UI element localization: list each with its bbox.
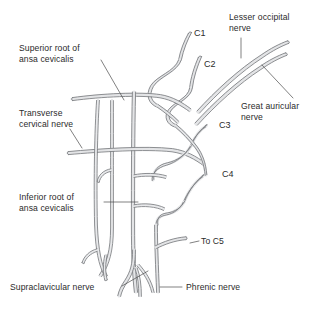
label-root-c2: C2 — [204, 59, 216, 69]
nerve-to-c5 — [155, 237, 187, 249]
nerve-superior-root-branch — [97, 169, 111, 183]
label-to-c5: To C5 — [201, 236, 224, 247]
nerve-network — [67, 32, 289, 296]
label-root-c4: C4 — [222, 169, 234, 179]
nerve-c1-root — [179, 32, 192, 60]
label-superior-root-ansa-cervicalis: Superior root of ansa cevicalis — [19, 43, 80, 64]
label-root-c3: C3 — [219, 120, 231, 130]
nerve-c2-root — [190, 56, 202, 88]
nerve-c4-descending — [156, 201, 185, 225]
nerve-c4-root — [183, 175, 204, 203]
leader-lines — [70, 38, 293, 287]
leader-to-c5 — [190, 241, 199, 243]
nerve-phrenic — [155, 225, 160, 292]
nerve-plexus-crosslink — [134, 173, 166, 178]
label-great-auricular-nerve: Great auricular nerve — [241, 101, 299, 122]
label-root-c1: C1 — [194, 28, 206, 38]
label-supraclavicular-nerve: Supraclavicular nerve — [10, 282, 94, 293]
nerve-superior-root-ansa — [99, 100, 113, 277]
leader-transverse-cervical — [70, 129, 82, 148]
leader-great-auricular — [262, 65, 293, 98]
label-lesser-occipital-nerve: Lesser occipital nerve — [229, 12, 290, 33]
label-phrenic-nerve: Phrenic nerve — [186, 282, 240, 293]
label-inferior-root-ansa-cervicalis: Inferior root of ansa cevicalis — [19, 192, 74, 213]
label-transverse-cervical-nerve: Transverse cervical nerve — [19, 108, 73, 129]
nerve-plexus-crosslink-2 — [134, 204, 165, 211]
nerve-inferior-root-hook — [82, 249, 97, 264]
